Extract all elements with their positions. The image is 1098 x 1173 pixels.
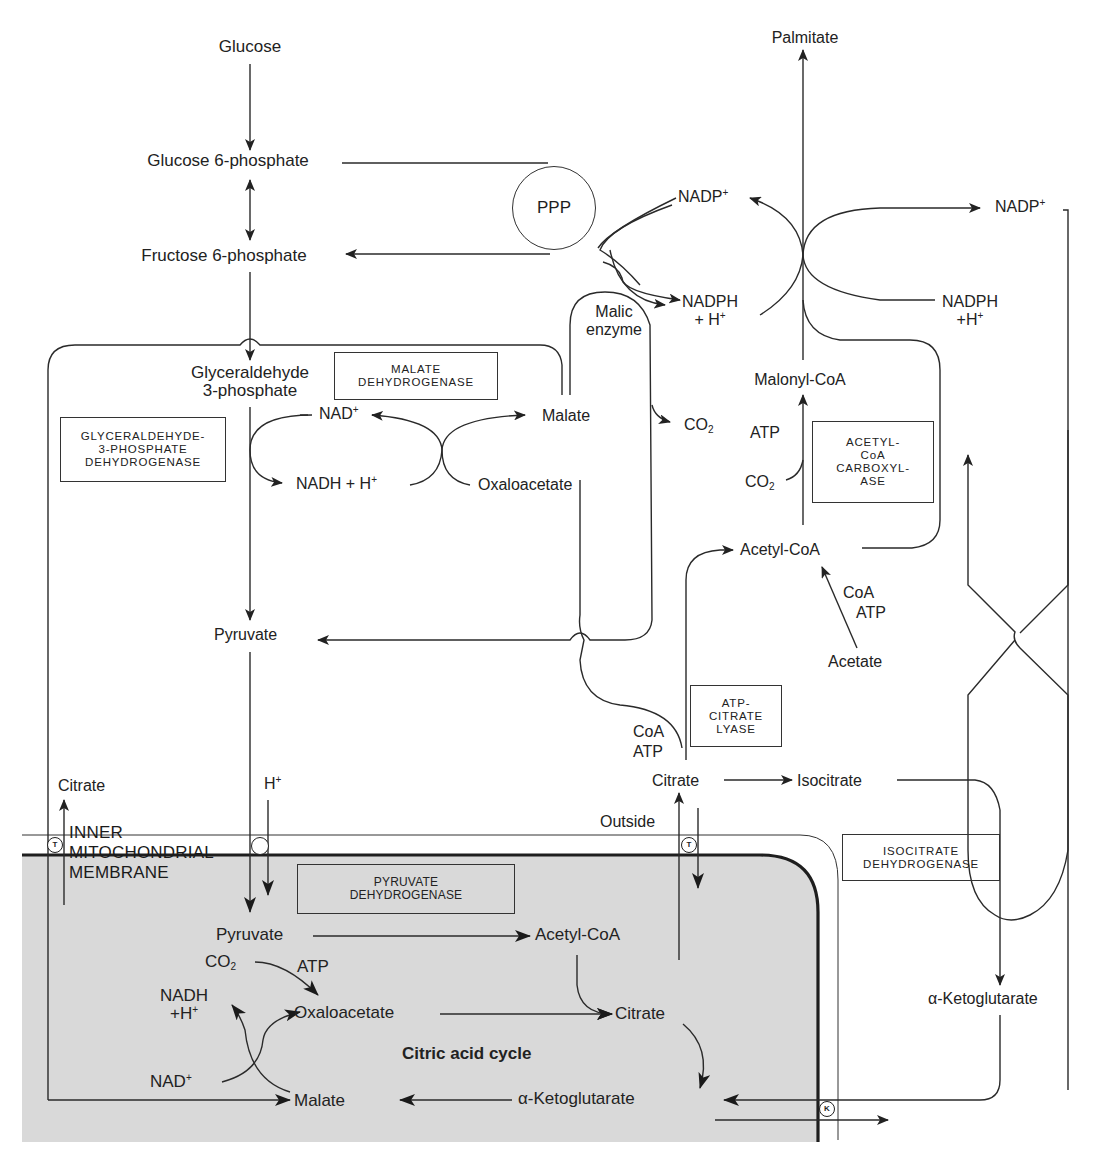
membrane-line1: INNER — [69, 823, 214, 843]
subscript-2: 2 — [231, 961, 237, 972]
enzyme-line: GLYCERALDEHYDE- — [81, 430, 205, 443]
co-text: CO — [205, 952, 231, 971]
pyruvate-h-symporter-icon — [251, 837, 269, 855]
mito-pyruvate-label: Pyruvate — [216, 926, 283, 944]
nadp-plus-right-label: NADP+ — [995, 198, 1045, 216]
nadp-text: NADP — [995, 198, 1039, 215]
glyceraldehyde-line2: 3-phosphate — [191, 382, 309, 400]
palmitate-label: Palmitate — [772, 29, 839, 47]
malic-line1: Malic — [586, 303, 642, 321]
nadh-line1: NADH — [160, 987, 208, 1005]
h-plus-label: H+ — [264, 775, 281, 793]
mito-atp-label: ATP — [297, 958, 329, 976]
h-text: +H — [170, 1004, 192, 1023]
nadp-plus-left-label: NADP+ — [678, 188, 728, 206]
outside-label: Outside — [600, 813, 655, 831]
h-text: + H — [694, 311, 719, 328]
acl-atp-label: ATP — [633, 743, 663, 761]
nadph-left-label: NADPH + H+ — [682, 293, 738, 329]
enzyme-line: ISOCITRATE — [883, 845, 959, 858]
enzyme-line: DEHYDROGENASE — [350, 889, 463, 902]
enzyme-box-malate-dehydrogenase: MALATE DEHYDROGENASE — [334, 352, 498, 400]
cytosol-malate-label: Malate — [542, 407, 590, 425]
nadph-right-label: NADPH +H+ — [942, 293, 998, 329]
mito-alpha-ketoglutarate-label: α-Ketoglutarate — [518, 1090, 635, 1108]
mito-nad-plus-label: NAD+ — [150, 1073, 192, 1091]
mito-co2-label: CO2 — [205, 953, 236, 971]
acetate-coa-label: CoA — [843, 584, 874, 602]
enzyme-line: ASE — [860, 475, 885, 488]
superscript-plus: + — [720, 310, 726, 321]
enzyme-line: DEHYDROGENASE — [358, 376, 474, 389]
mito-acetyl-coa-label: Acetyl-CoA — [535, 926, 620, 944]
superscript-plus: + — [978, 310, 984, 321]
nadph-line1: NADPH — [682, 293, 738, 311]
acetate-label: Acetate — [828, 653, 882, 671]
enzyme-line: DEHYDROGENASE — [85, 456, 201, 469]
enzyme-line: 3-PHOSPHATE — [98, 443, 187, 456]
citric-acid-cycle-label: Citric acid cycle — [402, 1045, 531, 1063]
enzyme-line2: enzyme — [586, 321, 642, 339]
membrane-line3: MEMBRANE — [69, 863, 214, 883]
cytosol-alpha-ketoglutarate-label: α-Ketoglutarate — [928, 990, 1038, 1008]
citrate-transporter-left-icon: T — [47, 837, 63, 853]
enzyme-line: CITRATE — [709, 710, 763, 723]
glyceraldehyde-3-phosphate-label: Glyceraldehyde 3-phosphate — [191, 364, 309, 400]
cytosol-citrate-label: Citrate — [652, 772, 699, 790]
enzyme-line: LYASE — [716, 723, 755, 736]
enzyme-box-atp-citrate-lyase: ATP- CITRATE LYASE — [690, 685, 782, 747]
malonyl-coa-label: Malonyl-CoA — [754, 371, 846, 389]
enzyme-box-acetyl-coa-carboxylase: ACETYL- CoA CARBOXYL- ASE — [812, 421, 934, 503]
citrate-transporter-right-icon: T — [681, 837, 697, 853]
acl-coa-label: CoA — [633, 723, 664, 741]
superscript-plus: + — [192, 1004, 198, 1015]
exported-citrate-label: Citrate — [58, 777, 105, 795]
malic-enzyme-label: Malic enzyme — [586, 303, 642, 339]
enzyme-box-gapdh: GLYCERALDEHYDE- 3-PHOSPHATE DEHYDROGENAS… — [60, 417, 226, 482]
membrane-line2: MITOCHONDRIAL — [69, 843, 214, 863]
enzyme-line: DEHYDROGENASE — [863, 858, 979, 871]
h-text: H — [264, 775, 276, 792]
superscript-plus: + — [722, 187, 728, 198]
nad-text: NAD — [150, 1072, 186, 1091]
inner-mitochondrial-membrane-label: INNER MITOCHONDRIAL MEMBRANE — [69, 823, 214, 883]
mito-citrate-label: Citrate — [615, 1005, 665, 1023]
glucose-label: Glucose — [219, 38, 281, 56]
enzyme-line: MALATE — [391, 363, 441, 376]
mito-malate-label: Malate — [294, 1092, 345, 1110]
enzyme-box-pyruvate-dehydrogenase: PYRUVATE DEHYDROGENASE — [297, 864, 515, 914]
cytosol-pyruvate-label: Pyruvate — [214, 626, 277, 644]
enzyme-box-isocitrate-dehydrogenase: ISOCITRATE DEHYDROGENASE — [842, 834, 1000, 881]
superscript-plus: + — [276, 774, 282, 785]
acetate-atp-label: ATP — [856, 604, 886, 622]
nadh-text: NADH + H — [296, 475, 371, 492]
nad-plus-label: NAD+ — [319, 405, 359, 423]
isocitrate-label: Isocitrate — [797, 772, 862, 790]
superscript-plus: + — [371, 474, 377, 485]
subscript-2: 2 — [769, 481, 775, 492]
cytosol-oxaloacetate-label: Oxaloacetate — [478, 476, 572, 494]
malic-co2-label: CO2 — [684, 416, 714, 434]
pentose-phosphate-pathway-node: PPP — [512, 166, 596, 250]
mito-oxaloacetate-label: Oxaloacetate — [294, 1004, 394, 1022]
fructose-6-phosphate-label: Fructose 6-phosphate — [141, 247, 306, 265]
superscript-plus: + — [353, 404, 359, 415]
enzyme-line: CARBOXYL- — [836, 462, 910, 475]
h-text: +H — [957, 311, 978, 328]
subscript-2: 2 — [708, 424, 714, 435]
acc-co2-label: CO2 — [745, 473, 775, 491]
nadh-h-label: NADH + H+ — [296, 475, 377, 493]
co-text: CO — [745, 473, 769, 490]
enzyme-line: ATP- — [722, 697, 751, 710]
enzyme-line: CoA — [861, 449, 886, 462]
nadph-line1: NADPH — [942, 293, 998, 311]
superscript-plus: + — [1039, 197, 1045, 208]
nadp-text: NADP — [678, 188, 722, 205]
nad-text: NAD — [319, 405, 353, 422]
glucose-6-phosphate-label: Glucose 6-phosphate — [147, 152, 309, 170]
enzyme-line: ACETYL- — [846, 436, 900, 449]
co-text: CO — [684, 416, 708, 433]
superscript-plus: + — [186, 1072, 192, 1083]
lipogenesis-pathway-diagram: PPP Glucose Glucose 6-phosphate Fructose… — [0, 0, 1098, 1173]
mito-nadh-label: NADH +H+ — [160, 987, 208, 1023]
